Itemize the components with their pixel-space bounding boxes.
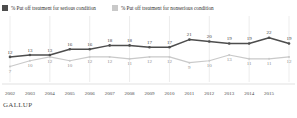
data-label: 12 [167,59,173,64]
data-point [288,42,291,45]
x-axis-tick-label: 2013 [224,90,234,97]
data-label: 10 [67,63,73,68]
data-label: 16 [87,42,93,47]
x-axis-tick-label: 2002 [5,90,15,97]
x-axis-tick-label: 2011 [184,90,194,97]
data-point [69,60,71,62]
data-label: 9 [188,65,191,70]
data-point [288,56,290,58]
x-axis-tick-label: 2004 [45,90,55,97]
data-point [188,38,191,41]
data-label: 12 [147,59,153,64]
data-point [268,58,270,60]
data-label: 10 [207,63,213,68]
data-label: 13 [27,48,33,53]
data-label: 22 [267,30,273,35]
legend-item-nonserious[interactable]: % Put off treatment for nonserious condi… [112,5,214,11]
data-point [29,54,32,57]
data-label: 19 [227,36,233,41]
data-point [228,54,230,56]
data-point [89,56,91,58]
data-point [49,54,52,57]
data-label: 20 [207,34,213,39]
data-label: 16 [67,42,73,47]
data-point [68,48,71,51]
x-axis-tick-label: 2006 [85,90,95,97]
data-label: 11 [127,61,132,66]
x-axis-tick-label: 2012 [204,90,214,97]
x-axis-tick-label: 2003 [25,90,35,97]
x-axis-tick-label: 2010 [164,90,174,97]
data-label: 10 [27,63,33,68]
data-label: 19 [247,36,253,41]
chart-svg: 7101210121211121291013111112121313161618… [0,14,297,92]
data-point [168,46,171,49]
data-label: 12 [287,59,293,64]
data-point [248,58,250,60]
data-label: 18 [127,38,133,43]
data-point [109,56,111,58]
data-point [268,36,271,39]
data-label: 17 [147,40,153,45]
square-swatch-icon [2,5,8,11]
x-axis-tick-label: 2015 [264,90,274,97]
data-label: 17 [167,40,173,45]
square-swatch-icon [112,5,118,11]
x-axis-tick-label: 2005 [65,90,75,97]
data-label: 12 [47,59,53,64]
x-axis-tick-label: 2014 [244,90,254,97]
x-axis-tick-label: 2009 [145,90,155,97]
data-point [108,44,111,47]
chart-figure: % Put off treatment for serious conditio… [0,0,297,118]
data-point [168,56,170,58]
chart-plot-area: 7101210121211121291013111112121313161618… [0,14,297,92]
data-label: 11 [247,61,252,66]
data-label: 7 [9,69,12,74]
data-label: 13 [47,48,53,53]
x-axis-tick-label: 2007 [105,90,115,97]
gallup-brand: GALLUP [3,101,32,109]
data-point [128,44,131,47]
data-label: 12 [8,50,14,55]
data-point [9,66,11,68]
data-point [228,42,231,45]
data-point [208,40,211,43]
legend-item-serious[interactable]: % Put off treatment for serious conditio… [2,5,96,11]
chart-legend: % Put off treatment for serious conditio… [2,2,295,14]
data-label: 13 [227,57,233,62]
data-point [148,46,151,49]
data-point [129,58,131,60]
data-point [149,56,151,58]
data-point [188,62,190,64]
data-label: 12 [107,59,113,64]
data-point [248,42,251,45]
data-label: 11 [267,61,272,66]
data-point [9,56,12,59]
data-point [29,60,31,62]
x-axis: 2002200320042005200620072008200920102011… [0,90,297,100]
x-axis-tick-label: 2008 [125,90,135,97]
data-label: 19 [287,36,293,41]
data-point [208,60,210,62]
data-point [88,48,91,51]
data-label: 18 [107,38,113,43]
legend-label-serious: % Put off treatment for serious conditio… [11,5,96,11]
data-label: 12 [87,59,93,64]
legend-label-nonserious: % Put off treatment for nonserious condi… [121,5,214,11]
data-label: 21 [187,32,193,37]
